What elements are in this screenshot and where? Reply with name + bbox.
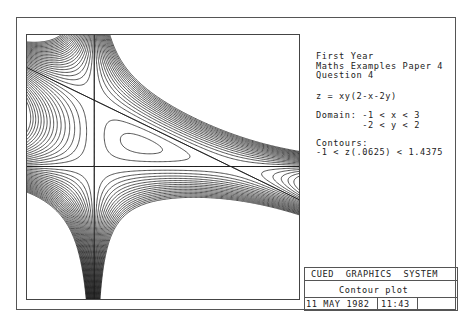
system-name: CUED GRAPHICS SYSTEM [311,269,438,279]
date-label: 11 MAY 1982 [306,299,370,309]
equation-text: z = xy(2-x-2y) [316,92,397,101]
heading-line-1: First Year [316,52,374,61]
time-label: 11:43 [381,299,410,309]
heading-line-3: Question 4 [316,71,374,80]
contours-range: -1 < z(.0625) < 1.4375 [316,148,443,157]
plot-type-label: Contour plot [339,285,408,295]
domain-x: Domain: -1 < x < 3 [316,111,420,120]
domain-y: -2 < y < 2 [316,121,420,130]
